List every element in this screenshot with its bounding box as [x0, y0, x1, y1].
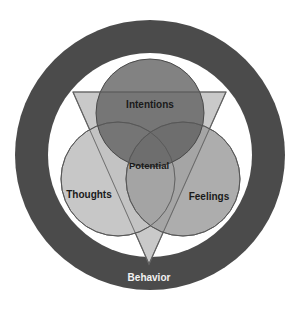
behavior-label: Behavior — [128, 272, 171, 283]
thoughts-label: Thoughts — [66, 189, 112, 200]
feelings-label: Feelings — [189, 191, 230, 202]
intentions-circle — [96, 59, 204, 167]
venn-diagram: Intentions Potential Thoughts Feelings B… — [0, 0, 299, 311]
intentions-label: Intentions — [126, 99, 174, 110]
potential-label: Potential — [129, 160, 169, 171]
